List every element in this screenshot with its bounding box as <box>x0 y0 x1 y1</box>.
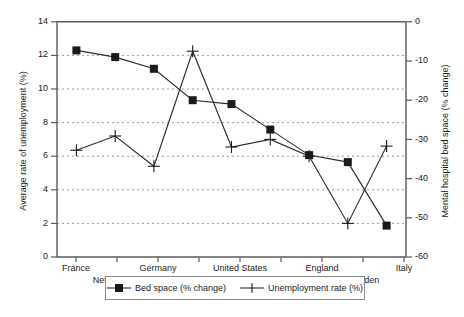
x-axis-ticks <box>76 257 404 262</box>
filled-square-marker-icon <box>107 283 131 293</box>
axis-lines <box>57 22 406 257</box>
y-tick-right-m10: -10 <box>415 55 443 65</box>
series-unemployment-rate <box>70 45 392 229</box>
legend-entry-unemployment-rate: Unemployment rate (%) <box>240 283 363 293</box>
y-tick-right-m20: -20 <box>415 94 443 104</box>
y-tick-right-m40: -40 <box>415 173 443 183</box>
plus-marker-icon <box>240 283 264 293</box>
y-tick-right-m30: -30 <box>415 134 443 144</box>
y-tick-left-0: 0 <box>22 251 48 261</box>
chart-figure: Average rate of unemployment (%) Mental … <box>0 0 464 317</box>
y-tick-left-2: 2 <box>22 218 48 228</box>
series-bed-space-markers <box>72 46 390 229</box>
x-tick-germany: Germany <box>113 263 203 273</box>
y-axis-right-ticks <box>406 22 412 257</box>
x-tick-france: France <box>31 263 121 273</box>
y-tick-left-8: 8 <box>22 117 48 127</box>
legend-entry-bed-space: Bed space (% change) <box>107 283 226 293</box>
y-tick-right-m60: -60 <box>415 251 443 261</box>
y-tick-left-12: 12 <box>22 49 48 59</box>
y-tick-left-14: 14 <box>22 16 48 26</box>
y-tick-right-0: 0 <box>415 16 443 26</box>
grid-lines <box>57 55 406 223</box>
y-tick-left-4: 4 <box>22 184 48 194</box>
y-tick-left-6: 6 <box>22 150 48 160</box>
legend-label-bed-space: Bed space (% change) <box>135 283 226 293</box>
series-unemployment-markers <box>70 45 392 229</box>
chart-legend: Bed space (% change) Unemployment rate (… <box>105 276 365 300</box>
legend-label-unemployment-rate: Unemployment rate (%) <box>268 283 363 293</box>
y-tick-left-10: 10 <box>22 83 48 93</box>
x-tick-italy: Italy <box>359 263 449 273</box>
series-bed-space <box>72 46 390 229</box>
x-tick-united-states: United States <box>195 263 285 273</box>
x-tick-england: England <box>277 263 367 273</box>
y-axis-left-ticks <box>51 22 57 257</box>
y-tick-right-m50: -50 <box>415 212 443 222</box>
